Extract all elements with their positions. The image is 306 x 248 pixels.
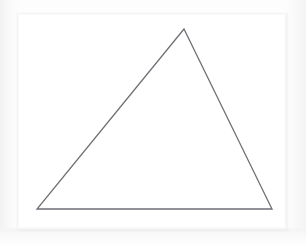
- image-canvas: [0, 0, 306, 248]
- triangle-drawing: [0, 0, 306, 248]
- triangle-shape: [37, 29, 272, 209]
